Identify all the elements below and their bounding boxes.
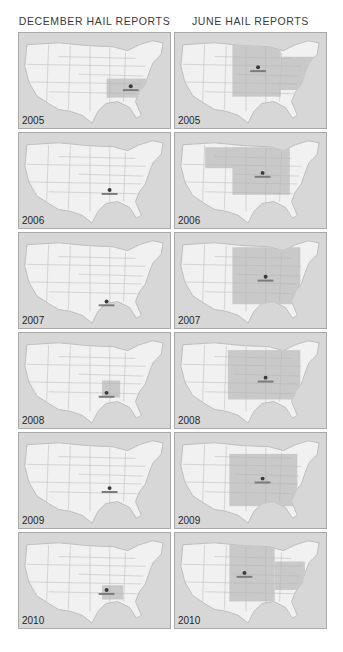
us-map	[175, 433, 326, 528]
map-panel-december-2007: 2007	[18, 232, 171, 329]
us-map	[19, 133, 170, 228]
year-label: 2007	[178, 315, 200, 326]
us-map	[175, 233, 326, 328]
map-panel-june-2009: 2009	[174, 432, 327, 529]
year-label: 2010	[22, 615, 44, 626]
year-label: 2006	[22, 215, 44, 226]
year-label: 2008	[178, 415, 200, 426]
year-label: 2006	[178, 215, 200, 226]
us-map	[19, 433, 170, 528]
map-panel-december-2006: 2006	[18, 132, 171, 229]
us-map	[19, 33, 170, 128]
us-map	[19, 533, 170, 628]
map-panel-june-2007: 2007	[174, 232, 327, 329]
year-label: 2007	[22, 315, 44, 326]
year-label: 2005	[22, 115, 44, 126]
map-panel-june-2008: 2008	[174, 332, 327, 429]
map-panel-june-2005: 2005	[174, 32, 327, 129]
map-panel-december-2010: 2010	[18, 532, 171, 629]
us-map	[175, 333, 326, 428]
map-panel-december-2009: 2009	[18, 432, 171, 529]
year-label: 2005	[178, 115, 200, 126]
us-map	[19, 233, 170, 328]
us-map	[175, 133, 326, 228]
us-map	[19, 333, 170, 428]
year-label: 2009	[178, 515, 200, 526]
year-label: 2008	[22, 415, 44, 426]
year-label: 2009	[22, 515, 44, 526]
map-panel-december-2008: 2008	[18, 332, 171, 429]
year-label: 2010	[178, 615, 200, 626]
us-map	[175, 533, 326, 628]
us-map	[175, 33, 326, 128]
column-title-december: DECEMBER HAIL REPORTS	[18, 15, 171, 27]
map-panel-june-2010: 2010	[174, 532, 327, 629]
map-panel-december-2005: 2005	[18, 32, 171, 129]
map-panel-june-2006: 2006	[174, 132, 327, 229]
column-title-june: JUNE HAIL REPORTS	[174, 15, 327, 27]
